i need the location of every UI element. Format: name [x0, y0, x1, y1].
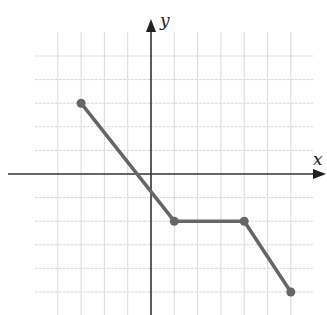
coordinate-plane: x y — [0, 0, 327, 315]
x-axis-arrow-icon — [313, 169, 326, 179]
y-axis-arrow-icon — [146, 19, 156, 32]
data-point — [77, 99, 86, 108]
data-point — [240, 217, 249, 226]
x-axis-label: x — [313, 149, 323, 169]
data-point — [286, 288, 295, 297]
y-axis-label: y — [159, 10, 170, 30]
data-point — [170, 217, 179, 226]
